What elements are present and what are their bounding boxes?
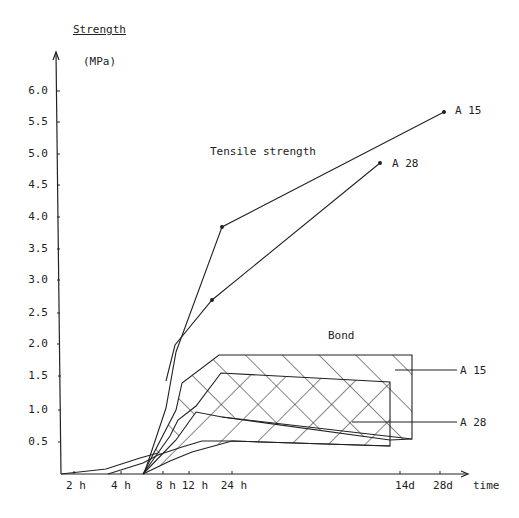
y-tick-label: 4.0 (14, 211, 48, 222)
tensile-a28-label: A 28 (392, 158, 419, 169)
y-tick-label: 2.0 (14, 338, 48, 349)
y-tick-label: 6.0 (14, 85, 48, 96)
bond-a28-label: A 28 (460, 417, 487, 428)
x-tick-label: 12 h (182, 480, 209, 491)
strength-chart (0, 0, 519, 518)
x-tick-label: 24 h (221, 480, 248, 491)
y-tick-label: 0.5 (14, 436, 48, 447)
y-axis (56, 52, 61, 474)
x-axis-title: time (473, 480, 500, 491)
tensile-strength-annotation: Tensile strength (210, 146, 316, 157)
y-tick-label: 3.5 (14, 243, 48, 254)
y-tick-label: 1.5 (14, 370, 48, 381)
x-tick-label: 28d (433, 480, 453, 491)
y-tick-label: 3.0 (14, 274, 48, 285)
y-axis-unit: (MPa) (83, 56, 116, 67)
y-tick-label: 5.0 (14, 148, 48, 159)
bond-a15-label: A 15 (460, 365, 487, 376)
y-tick-label: 2.5 (14, 307, 48, 318)
x-tick-label: 8 h (156, 480, 176, 491)
bond-annotation: Bond (328, 330, 355, 341)
tensile-a15-label: A 15 (455, 105, 482, 116)
x-tick-label: 2 h (66, 480, 86, 491)
x-tick-label: 4 h (111, 480, 131, 491)
tensile-a28-line (166, 162, 381, 381)
y-tick-label: 5.5 (14, 116, 48, 127)
y-tick-label: 4.5 (14, 179, 48, 190)
y-axis-title: Strength (73, 24, 126, 35)
y-tick-label: 1.0 (14, 404, 48, 415)
x-tick-label: 14d (395, 480, 415, 491)
bond-a28-band (143, 373, 390, 474)
